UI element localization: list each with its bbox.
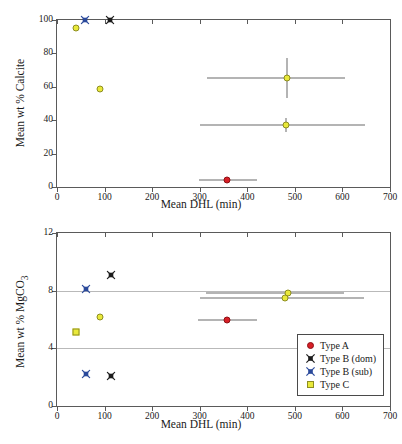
calcite-y-label-60: 60 [44, 82, 54, 92]
legend-entry-type-c[interactable]: Type C [303, 378, 376, 391]
calcite-plot-area: 0204060801000100200300400500600700 [56, 19, 391, 188]
legend-swatch-0 [307, 342, 314, 349]
mgco3-x-tick-top-600 [342, 233, 343, 237]
figure-container: 0204060801000100200300400500600700 Mean … [0, 0, 402, 444]
calcite-xerror-bar [207, 77, 345, 78]
calcite-x-tick-top-400 [247, 20, 248, 24]
mgco3-point-type-c-circle--2 [282, 294, 289, 301]
calcite-x-tick-top-200 [152, 20, 153, 24]
mgco3-legend: Type AType B (dom)Type B (sub)Type C [297, 334, 384, 396]
calcite-point-type-b-dom--0 [106, 16, 115, 25]
calcite-point-type-a-0 [224, 177, 231, 184]
mgco3-x-tick-top-100 [105, 233, 106, 237]
calcite-y-label-0: 0 [48, 182, 53, 192]
calcite-y-label-40: 40 [44, 115, 54, 125]
legend-swatch-2 [306, 367, 315, 376]
mgco3-point-type-c-0 [73, 329, 80, 336]
mgco3-xerror-bar [206, 292, 344, 293]
mgco3-point-type-c-circle--0 [96, 313, 103, 320]
mgco3-point-type-b-dom--1 [106, 371, 115, 380]
mgco3-y-label-12: 12 [44, 228, 54, 238]
calcite-x-tick-top-700 [390, 20, 391, 24]
calcite-y-label-80: 80 [44, 49, 54, 59]
legend-entry-type-a[interactable]: Type A [303, 339, 376, 352]
legend-label-3: Type C [320, 380, 349, 390]
calcite-point-type-b-sub--0 [80, 16, 89, 25]
legend-marker-x-dark-icon [303, 354, 317, 363]
mgco3-point-type-b-sub--1 [81, 370, 90, 379]
legend-swatch-3 [307, 381, 314, 388]
calcite-point-type-c-0 [73, 25, 80, 32]
calcite-x-axis-title: Mean DHL (min) [0, 198, 402, 210]
legend-marker-square-icon [303, 381, 317, 388]
mgco3-x-tick-top-400 [247, 233, 248, 237]
mgco3-x-tick-top-500 [295, 233, 296, 237]
mgco3-y-label-4: 4 [48, 344, 53, 354]
mgco3-point-type-b-dom--0 [106, 270, 115, 279]
calcite-point-type-c-1 [96, 86, 103, 93]
mgco3-x-tick-top-700 [390, 233, 391, 237]
mgco3-y-label-8: 8 [48, 286, 53, 296]
calcite-x-tick-top-0 [57, 20, 58, 24]
calcite-y-axis-title: Mean wt % Calcite [14, 38, 26, 168]
mgco3-y-axis-title-main: Mean wt % MgCO [14, 280, 26, 368]
legend-entry-type-b-sub-[interactable]: Type B (sub) [303, 365, 376, 378]
mgco3-x-tick-top-300 [200, 233, 201, 237]
mgco3-panel: 048120100200300400500600700 Mean DHL (mi… [0, 220, 402, 444]
mgco3-y-axis-title-subscript: 3 [19, 275, 30, 280]
calcite-y-label-20: 20 [44, 149, 54, 159]
mgco3-y-label-0: 0 [48, 401, 53, 411]
legend-marker-x-blue-icon [303, 367, 317, 376]
legend-swatch-1 [306, 354, 315, 363]
mgco3-y-axis-title: Mean wt % MgCO3 [14, 252, 29, 392]
calcite-x-tick-top-300 [200, 20, 201, 24]
legend-entry-type-b-dom-[interactable]: Type B (dom) [303, 352, 376, 365]
calcite-point-type-c-3 [282, 121, 289, 128]
legend-label-1: Type B (dom) [320, 354, 376, 364]
mgco3-x-tick-top-200 [152, 233, 153, 237]
mgco3-point-type-b-sub--0 [81, 285, 90, 294]
calcite-panel: 0204060801000100200300400500600700 Mean … [0, 0, 402, 222]
calcite-point-type-c-2 [283, 74, 290, 81]
calcite-x-tick-top-500 [295, 20, 296, 24]
legend-marker-circle-icon [303, 342, 317, 349]
legend-label-2: Type B (sub) [320, 367, 372, 377]
mgco3-x-axis-title: Mean DHL (min) [0, 418, 402, 430]
mgco3-x-tick-top-0 [57, 233, 58, 237]
calcite-x-tick-top-600 [342, 20, 343, 24]
calcite-y-label-100: 100 [39, 15, 53, 25]
legend-label-0: Type A [320, 341, 349, 351]
mgco3-point-type-a-0 [224, 316, 231, 323]
